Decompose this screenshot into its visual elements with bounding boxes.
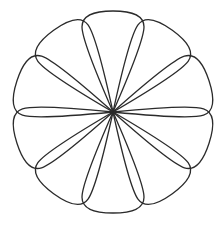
flower-figure [0, 0, 223, 226]
drawing-canvas [0, 0, 223, 226]
